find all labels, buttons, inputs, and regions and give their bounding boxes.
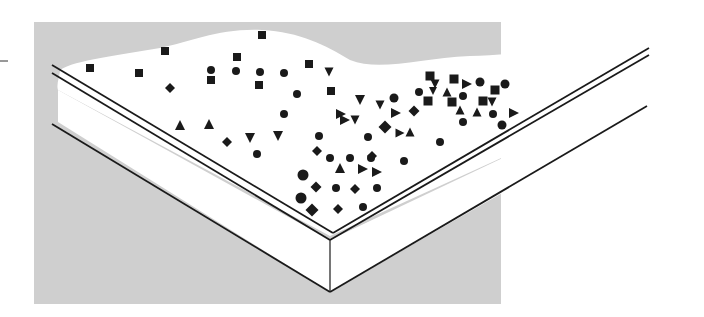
circle-particle [298, 170, 309, 181]
circle-particle [373, 184, 381, 192]
square-particle [135, 69, 143, 77]
circle-particle [296, 193, 307, 204]
circle-particle [459, 92, 467, 100]
circle-particle [280, 110, 288, 118]
circle-particle [359, 203, 367, 211]
square-particle [426, 72, 435, 81]
circle-particle [332, 184, 340, 192]
circle-particle [501, 80, 510, 89]
circle-particle [364, 133, 372, 141]
square-particle [86, 64, 94, 72]
circle-particle [415, 88, 423, 96]
circle-particle [293, 90, 301, 98]
circle-particle [436, 138, 444, 146]
square-particle [327, 87, 335, 95]
square-particle [305, 60, 313, 68]
diagram-canvas [0, 0, 704, 317]
circle-particle [315, 132, 323, 140]
circle-particle [326, 154, 334, 162]
circle-particle [390, 94, 399, 103]
circle-particle [489, 110, 497, 118]
square-particle [448, 98, 457, 107]
circle-particle [476, 78, 485, 87]
circle-particle [256, 68, 264, 76]
square-particle [161, 47, 169, 55]
square-particle [258, 31, 266, 39]
circle-particle [346, 154, 354, 162]
circle-particle [232, 67, 240, 75]
circle-particle [253, 150, 261, 158]
circle-particle [280, 69, 288, 77]
square-particle [479, 97, 488, 106]
circle-particle [498, 121, 507, 130]
block-diagram [0, 0, 704, 317]
square-particle [491, 86, 500, 95]
square-particle [207, 76, 215, 84]
circle-particle [400, 157, 408, 165]
circle-particle [459, 118, 467, 126]
square-particle [255, 81, 263, 89]
square-particle [424, 97, 433, 106]
circle-particle [207, 66, 215, 74]
square-particle [450, 75, 459, 84]
square-particle [233, 53, 241, 61]
